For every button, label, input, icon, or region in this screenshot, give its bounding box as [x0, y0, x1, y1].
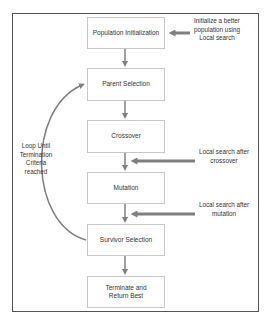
step-crossover: Crossover	[87, 120, 165, 153]
note-crossover-local-search: Local search after crossover	[196, 148, 252, 165]
step-label: Mutation	[114, 184, 139, 192]
step-terminate: Terminate and Return Best	[87, 276, 165, 308]
step-survivor-selection: Survivor Selection	[87, 224, 165, 256]
step-label: Crossover	[111, 132, 141, 140]
step-parent-selection: Parent Selection	[87, 68, 165, 101]
note-init-local-search: Initialize a better population using Loc…	[189, 17, 245, 43]
step-label: Survivor Selection	[100, 236, 152, 244]
step-label: Population Initialization	[93, 29, 160, 37]
note-mutation-local-search: Local search after mutation	[196, 201, 252, 218]
note-loop: Loop Until Termination Criteria reached	[14, 142, 58, 176]
step-label: Terminate and Return Best	[98, 284, 154, 301]
step-mutation: Mutation	[87, 172, 165, 204]
step-label: Parent Selection	[102, 80, 150, 88]
step-population-initialization: Population Initialization	[87, 17, 165, 49]
